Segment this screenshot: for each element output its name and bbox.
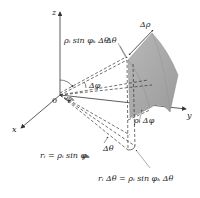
- bottom-equation: rᵢ Δθ = ρᵢ sin φₖ Δθ: [98, 175, 173, 183]
- volume-element-wedge: [128, 33, 178, 118]
- x-axis-label: x: [12, 126, 17, 134]
- z-axis-label: z: [52, 9, 56, 17]
- phi-arc: [60, 80, 73, 87]
- y-axis-label: y: [187, 112, 192, 120]
- r-i-equation: rᵢ = ρᵢ sin φₖ: [40, 152, 89, 160]
- delta-rho-label: Δρ: [140, 21, 150, 29]
- origin-label: 0: [52, 97, 57, 105]
- top-arc-label: ρᵢ sin φₖ Δθ: [64, 37, 109, 45]
- delta-theta-bottom-label: Δθ: [103, 145, 114, 153]
- spherical-wedge-diagram: z y x 0 ρᵢ sin φₖ Δθ Δρ Δθ φₖ Δφ ρᵢ Δφ Δ…: [0, 0, 200, 198]
- delta-theta-top-label: Δθ: [106, 37, 117, 45]
- phi-k-label: φₖ: [66, 95, 75, 103]
- diagram-graphics: [0, 0, 200, 198]
- rho-delta-phi-label: ρᵢ Δφ: [134, 117, 154, 125]
- delta-phi-label: Δφ: [89, 82, 100, 90]
